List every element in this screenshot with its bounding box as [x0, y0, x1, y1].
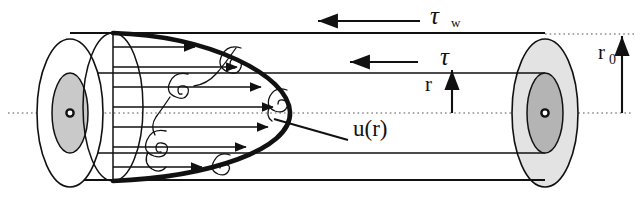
pipe-outlet-center-dot	[541, 109, 548, 116]
turbulence-eddies	[146, 47, 288, 175]
eddy-icon	[153, 97, 170, 135]
pipe-radius-label: r	[598, 42, 605, 63]
eddy-icon	[146, 152, 166, 171]
shear-stress-label: τ	[440, 44, 449, 69]
wall-shear-stress-subscript-label: w	[451, 16, 460, 29]
velocity-profile-label: u(r)	[353, 117, 387, 140]
eddy-icon	[168, 73, 188, 98]
pipe-flow-diagram: τ w τ r r 0 u(r)	[0, 0, 640, 206]
diagram-canvas	[0, 0, 640, 206]
wall-shear-stress-label: τ	[430, 3, 439, 28]
pipe-inlet-center-dot	[66, 109, 73, 116]
radius-label: r	[425, 74, 432, 95]
pipe-radius-subscript-label: 0	[609, 53, 616, 67]
